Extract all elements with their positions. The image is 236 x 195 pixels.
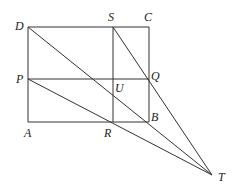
label-P: P (15, 72, 24, 86)
label-R: R (103, 126, 112, 140)
label-C: C (144, 10, 153, 24)
label-B: B (151, 110, 159, 124)
segment-ST (113, 27, 212, 175)
label-Q: Q (151, 69, 160, 83)
label-T: T (218, 170, 226, 184)
segment-DT (28, 27, 212, 175)
label-U: U (115, 81, 125, 95)
label-S: S (108, 10, 114, 24)
geometry-diagram: D S C P U Q A R B T (0, 0, 236, 195)
label-D: D (14, 19, 24, 33)
label-A: A (23, 126, 32, 140)
